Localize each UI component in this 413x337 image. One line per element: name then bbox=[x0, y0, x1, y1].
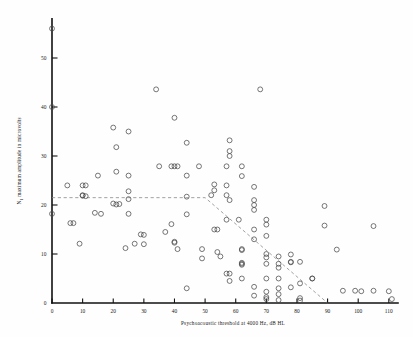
data-point bbox=[264, 255, 269, 260]
data-point bbox=[276, 286, 281, 291]
data-point bbox=[353, 288, 358, 293]
axis-labels: 010203040506070809010011001020304050Psyc… bbox=[16, 55, 393, 326]
data-point bbox=[264, 222, 269, 227]
data-point bbox=[200, 247, 205, 252]
data-point bbox=[340, 288, 345, 293]
x-tick-label: 50 bbox=[202, 308, 208, 314]
data-point bbox=[83, 194, 88, 199]
data-point bbox=[126, 211, 131, 216]
data-point bbox=[224, 183, 229, 188]
data-point bbox=[184, 212, 189, 217]
x-axis-title: Psychoacoustic threshold at 4000 Hz, dB … bbox=[181, 320, 285, 326]
data-point bbox=[252, 284, 257, 289]
data-point bbox=[239, 174, 244, 179]
data-point bbox=[197, 164, 202, 169]
data-point bbox=[371, 224, 376, 229]
x-tick-label: 10 bbox=[80, 308, 86, 314]
data-point bbox=[200, 256, 205, 261]
x-tick-label: 60 bbox=[233, 308, 239, 314]
data-point bbox=[141, 232, 146, 237]
y-tick-label: 40 bbox=[41, 104, 47, 110]
data-point bbox=[252, 227, 257, 232]
data-point bbox=[209, 193, 214, 198]
data-point bbox=[92, 210, 97, 215]
data-point bbox=[310, 276, 315, 281]
data-point bbox=[212, 188, 217, 193]
data-point bbox=[157, 164, 162, 169]
data-point bbox=[389, 297, 394, 302]
data-point bbox=[83, 183, 88, 188]
data-point bbox=[276, 276, 281, 281]
data-point bbox=[239, 276, 244, 281]
data-point bbox=[184, 286, 189, 291]
data-point bbox=[215, 250, 220, 255]
y-tick-label: 20 bbox=[41, 202, 47, 208]
data-point bbox=[371, 288, 376, 293]
data-point bbox=[184, 140, 189, 145]
data-point bbox=[288, 285, 293, 290]
y-tick-label: 50 bbox=[41, 55, 47, 61]
data-point bbox=[264, 289, 269, 294]
data-point bbox=[227, 154, 232, 159]
data-point bbox=[184, 173, 189, 178]
data-point bbox=[215, 227, 220, 232]
data-point bbox=[288, 252, 293, 257]
data-point bbox=[163, 230, 168, 235]
data-point bbox=[227, 279, 232, 284]
data-point bbox=[224, 193, 229, 198]
x-tick-label: 100 bbox=[354, 308, 362, 314]
data-point bbox=[276, 292, 281, 297]
data-point bbox=[175, 247, 180, 252]
data-point bbox=[172, 115, 177, 120]
regression-fit-path bbox=[52, 198, 328, 303]
data-point bbox=[99, 211, 104, 216]
y-tick-label: 0 bbox=[44, 300, 47, 306]
regression-fit-line bbox=[52, 198, 328, 303]
data-point bbox=[141, 242, 146, 247]
x-tick-label: 40 bbox=[172, 308, 178, 314]
data-point bbox=[252, 184, 257, 189]
data-point bbox=[239, 164, 244, 169]
data-point bbox=[132, 241, 137, 246]
data-point bbox=[218, 254, 223, 259]
data-point bbox=[227, 198, 232, 203]
data-point bbox=[322, 204, 327, 209]
x-tick-label: 90 bbox=[325, 308, 331, 314]
data-point bbox=[77, 241, 82, 246]
data-point bbox=[71, 221, 76, 226]
data-point bbox=[227, 138, 232, 143]
data-point bbox=[236, 217, 241, 222]
data-point bbox=[264, 233, 269, 238]
data-point bbox=[114, 145, 119, 150]
data-point bbox=[252, 207, 257, 212]
data-point bbox=[276, 298, 281, 303]
data-point bbox=[334, 247, 339, 252]
data-point bbox=[123, 246, 128, 251]
x-tick-label: 70 bbox=[264, 308, 270, 314]
data-point bbox=[126, 189, 131, 194]
data-point bbox=[111, 125, 116, 130]
data-point bbox=[252, 198, 257, 203]
figure-container: 010203040506070809010011001020304050Psyc… bbox=[0, 0, 413, 337]
data-point bbox=[359, 289, 364, 294]
axes bbox=[52, 19, 398, 303]
x-tick-label: 80 bbox=[294, 308, 300, 314]
data-point bbox=[298, 281, 303, 286]
x-tick-label: 20 bbox=[111, 308, 117, 314]
data-point bbox=[264, 217, 269, 222]
data-point bbox=[322, 223, 327, 228]
data-point bbox=[126, 173, 131, 178]
data-point bbox=[298, 259, 303, 264]
data-point bbox=[227, 271, 232, 276]
data-point bbox=[126, 129, 131, 134]
y-tick-label: 30 bbox=[41, 153, 47, 159]
data-point bbox=[175, 164, 180, 169]
data-point bbox=[65, 183, 70, 188]
data-point bbox=[264, 261, 269, 266]
x-tick-label: 110 bbox=[385, 308, 393, 314]
data-point bbox=[276, 254, 281, 259]
data-point bbox=[114, 169, 119, 174]
data-point bbox=[252, 203, 257, 208]
data-point bbox=[95, 173, 100, 178]
data-point bbox=[224, 164, 229, 169]
